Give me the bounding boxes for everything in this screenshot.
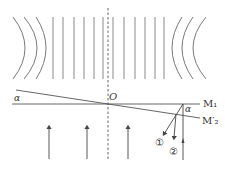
fringe-arc-left-2 <box>24 17 37 79</box>
incident-light-arrows <box>49 127 128 159</box>
left-curved-fringes <box>13 17 46 79</box>
incoming-ray-arrow-icon <box>182 138 185 143</box>
alpha-left-label: α <box>14 93 20 103</box>
fringe-arc-right-1 <box>172 17 182 79</box>
alpha-right-label: α <box>185 104 191 114</box>
fringe-arc-right-3 <box>193 17 206 79</box>
interference-diagram: α O α M₁ M′₂ ① ② <box>0 0 225 180</box>
straight-fringes <box>53 17 164 79</box>
fringe-arc-left-3 <box>36 17 46 79</box>
ray-2-label: ② <box>169 146 178 157</box>
origin-label: O <box>109 91 117 102</box>
ray-1-label: ① <box>155 137 164 148</box>
mirror-m2-prime-label: M′₂ <box>202 115 219 126</box>
fringe-arc-left-1 <box>13 17 25 79</box>
reflected-ray-1 <box>164 104 183 134</box>
fringe-arc-right-2 <box>182 17 193 79</box>
right-curved-fringes <box>172 17 206 79</box>
mirror-m1-label: M₁ <box>203 98 217 109</box>
